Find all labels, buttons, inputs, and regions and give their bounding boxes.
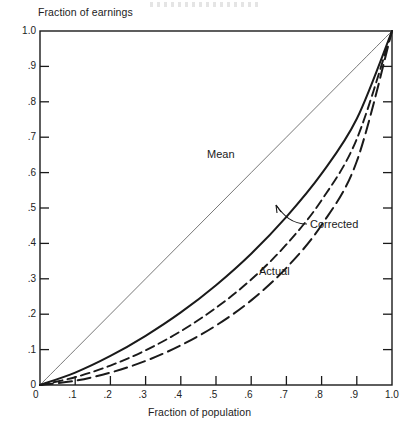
x-axis-ticks [75, 376, 357, 385]
data-curves [40, 31, 392, 385]
y-tick-label: 1.0 [22, 25, 36, 36]
y-tick-label: .3 [28, 273, 36, 284]
y-tick-label: .2 [28, 308, 36, 319]
corrected-leader-line [276, 205, 307, 224]
plot-canvas [0, 0, 414, 426]
y-axis-ticks [40, 66, 49, 349]
y-tick-label: .5 [28, 202, 36, 213]
x-tick-label: 0 [33, 389, 39, 400]
x-tick-label: .9 [350, 389, 358, 400]
y-tick-label: .4 [28, 237, 36, 248]
x-tick-label: .8 [315, 389, 323, 400]
y-tick-label: .9 [28, 60, 36, 71]
x-tick-label: 1.0 [385, 389, 399, 400]
y-tick-label: .7 [28, 131, 36, 142]
x-tick-label: .2 [103, 389, 111, 400]
x-tick-label: .5 [209, 389, 217, 400]
y-tick-label: .1 [28, 344, 36, 355]
x-tick-label: .4 [174, 389, 182, 400]
y-tick-label: .8 [28, 96, 36, 107]
x-tick-label: .6 [244, 389, 252, 400]
y-tick-label: .6 [28, 167, 36, 178]
x-tick-label: .3 [139, 389, 147, 400]
y-axis-ticks-right [383, 66, 392, 349]
lorenz-curve-figure: Fraction of earnings Fraction of populat… [0, 0, 414, 426]
x-tick-label: .7 [279, 389, 287, 400]
x-tick-label: .1 [68, 389, 76, 400]
curve-line-of-equality [40, 31, 392, 385]
